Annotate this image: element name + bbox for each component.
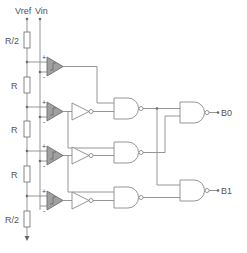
svg-text:-: - — [43, 207, 46, 214]
resistor-r4: R — [11, 166, 30, 182]
svg-text:R: R — [11, 81, 18, 91]
svg-text:-: - — [43, 73, 46, 80]
comparator-1: + - — [27, 54, 63, 80]
nand-gate-3 — [114, 187, 143, 208]
comparator-4: + - — [27, 188, 63, 214]
svg-text:+: + — [42, 54, 46, 61]
svg-text:+: + — [42, 188, 46, 195]
nand-gate-b0 — [180, 102, 209, 123]
svg-text:-: - — [43, 162, 46, 169]
svg-text:R/2: R/2 — [5, 215, 19, 225]
resistor-r2: R — [11, 77, 30, 93]
nand-gate-1 — [114, 98, 143, 119]
svg-text:R: R — [11, 170, 18, 180]
ground-arrow-icon — [25, 236, 30, 241]
svg-text:+: + — [42, 99, 46, 106]
vref-label: Vref — [15, 6, 32, 16]
vin-label: Vin — [35, 6, 48, 16]
nand-gate-b1 — [180, 180, 209, 201]
inverter-1 — [72, 103, 93, 120]
resistor-r1: R/2 — [5, 32, 30, 48]
output-b1-label: B1 — [221, 186, 232, 196]
nand-gate-2 — [114, 142, 143, 163]
adc-schematic: Vref Vin R/2 R R R R/2 + - — [0, 0, 247, 253]
resistor-r3: R — [11, 121, 30, 137]
resistor-r5: R/2 — [5, 211, 30, 227]
svg-text:-: - — [43, 118, 46, 125]
svg-text:R: R — [11, 125, 18, 135]
svg-text:+: + — [42, 143, 46, 150]
comparator-2: + - — [27, 99, 63, 125]
comparator-3: + - — [27, 143, 63, 169]
inverter-3 — [72, 192, 93, 209]
output-b0-label: B0 — [221, 108, 232, 118]
inverter-2 — [72, 147, 93, 164]
svg-text:R/2: R/2 — [5, 36, 19, 46]
